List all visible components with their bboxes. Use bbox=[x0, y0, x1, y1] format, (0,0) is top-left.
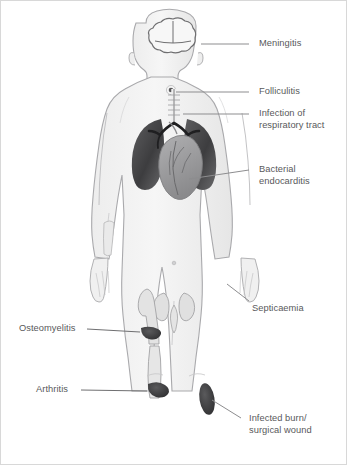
umbilicus-icon bbox=[172, 261, 176, 265]
label-meningitis: Meningitis bbox=[259, 38, 301, 50]
label-infection-of-respiratory-tract: Infection of respiratory tract bbox=[259, 108, 324, 131]
label-osteomyelitis: Osteomyelitis bbox=[19, 323, 75, 335]
label-folliculitis: Folliculitis bbox=[259, 86, 300, 98]
label-infected-burn-surgical-wound: Infected burn/ surgical wound bbox=[249, 413, 312, 436]
thigh-burn-wound-lesion-icon bbox=[197, 382, 217, 416]
infection-sites-diagram: Meningitis Folliculitis Infection of res… bbox=[0, 0, 347, 465]
body-silhouette bbox=[90, 9, 259, 391]
label-septicaemia: Septicaemia bbox=[252, 303, 304, 315]
label-bacterial-endocarditis: Bacterial endocarditis bbox=[259, 164, 310, 187]
label-arthritis: Arthritis bbox=[36, 384, 68, 396]
